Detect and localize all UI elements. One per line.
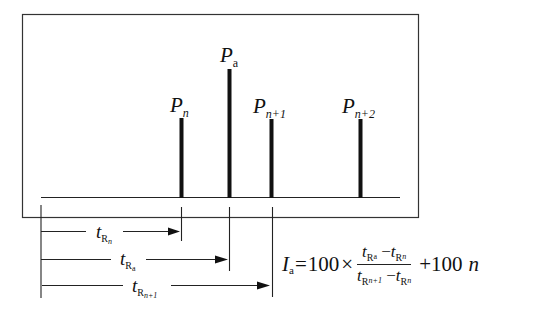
peak-Pa (228, 69, 232, 198)
t-sub: R (137, 287, 144, 298)
formula-fraction: tRa −tRn tRn+1 −tRn (357, 243, 411, 285)
label-tRn: tRn (96, 222, 112, 241)
arrowhead-tRn1 (257, 282, 270, 290)
peak-label-Pa: Pa (220, 45, 238, 66)
t-subsub: a (132, 264, 136, 273)
peak-label-main: P (253, 94, 266, 118)
t-subsub: n (108, 237, 112, 246)
formula-numerator: tRa −tRn (362, 243, 406, 262)
t-subsub: n+1 (144, 291, 157, 300)
peak-label-sub: n+1 (266, 107, 286, 121)
formula-times: × (341, 252, 353, 277)
label-tRa: tRa (120, 249, 136, 268)
minus-sign: − (381, 242, 391, 261)
t-subsub: n (407, 276, 411, 285)
formula-equals: = (295, 252, 307, 277)
formula-coefficient: 100 (308, 252, 340, 277)
peak-Pn (180, 118, 184, 198)
formula-n: n (468, 252, 479, 277)
t-sub: R (125, 260, 132, 271)
t-main: t (391, 242, 396, 261)
label-tRn1: tRn+1 (132, 276, 157, 295)
peak-label-sub: n+2 (355, 107, 375, 121)
arrowhead-tRa (215, 256, 228, 264)
formula-plus-term: +100 (419, 252, 462, 277)
formula-lhs-sub: a (289, 264, 294, 276)
peak-label-Pn1: Pn+1 (253, 96, 286, 117)
t-subsub: n+1 (368, 276, 381, 285)
peak-label-main: P (170, 93, 183, 117)
minus-sign: − (386, 266, 396, 285)
formula-lhs: I (282, 252, 289, 277)
t-subsub: a (373, 252, 377, 261)
peak-label-main: P (220, 43, 233, 67)
peak-label-Pn2: Pn+2 (342, 96, 375, 117)
t-sub: R (101, 233, 108, 244)
t-subsub: n (402, 252, 406, 261)
peak-label-Pn: Pn (170, 95, 189, 116)
retention-index-formula: Ia = 100 × tRa −tRn tRn+1 −tRn +100 n (282, 243, 479, 285)
arrowhead-tRn (168, 228, 180, 236)
fraction-bar (357, 264, 411, 265)
peak-Pn1 (270, 119, 274, 198)
formula-denominator: tRn+1 −tRn (357, 267, 411, 286)
peak-label-sub: a (233, 56, 238, 70)
peak-label-sub: n (183, 106, 189, 120)
peak-Pn2 (359, 119, 363, 198)
peak-label-main: P (342, 94, 355, 118)
